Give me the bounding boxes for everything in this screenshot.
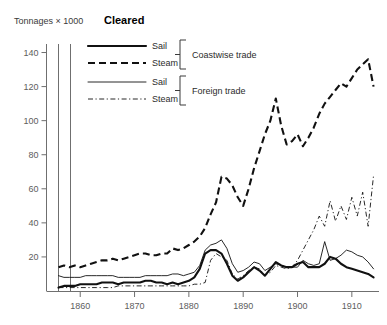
series-line-coastwise-sail xyxy=(59,250,374,287)
chart-title: Cleared xyxy=(104,14,144,26)
y-axis-tick-label: 40 xyxy=(28,218,38,228)
series-line-foreign-steam xyxy=(59,175,374,287)
legend-group-bracket xyxy=(180,40,186,69)
x-axis-tick-label: 1910 xyxy=(342,301,362,311)
chart-legend: SailSteamSailSteamCoastwise tradeForeign… xyxy=(88,40,257,105)
x-axis-tick-label: 1880 xyxy=(179,301,199,311)
chart-axes: 2040608010012014018601870188018901900191… xyxy=(23,44,379,311)
y-axis-tick-label: 60 xyxy=(28,184,38,194)
legend-label: Steam xyxy=(152,94,178,104)
x-axis-tick-label: 1860 xyxy=(70,301,90,311)
y-axis-tick-label: 140 xyxy=(23,48,38,58)
series-line-foreign-sail xyxy=(59,240,374,277)
x-axis-tick-label: 1870 xyxy=(125,301,145,311)
legend-label: Sail xyxy=(152,77,167,87)
x-axis-tick-label: 1900 xyxy=(288,301,308,311)
legend-group-bracket xyxy=(180,76,186,105)
legend-group-label: Coastwise trade xyxy=(192,50,257,60)
chart-container: Tonnages × 1000 Cleared SailSteamSailSte… xyxy=(0,0,387,325)
tonnages-cleared-line-chart: Tonnages × 1000 Cleared SailSteamSailSte… xyxy=(0,0,387,325)
y-axis-tick-label: 120 xyxy=(23,82,38,92)
y-axis-tick-label: 80 xyxy=(28,150,38,160)
y-axis-title: Tonnages × 1000 xyxy=(14,16,83,26)
y-axis-tick-label: 20 xyxy=(28,252,38,262)
y-axis-tick-label: 100 xyxy=(23,116,38,126)
x-axis-tick-label: 1890 xyxy=(233,301,253,311)
legend-label: Sail xyxy=(152,41,167,51)
legend-group-label: Foreign trade xyxy=(192,86,246,96)
legend-label: Steam xyxy=(152,58,178,68)
